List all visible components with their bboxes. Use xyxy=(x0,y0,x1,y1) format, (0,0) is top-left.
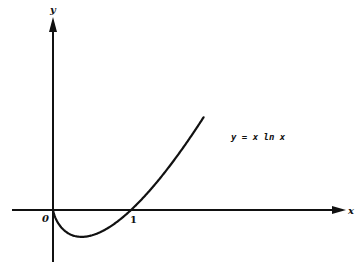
x-axis-label: x xyxy=(348,206,354,216)
tick-label-1: 1 xyxy=(130,215,137,225)
y-axis-label: y xyxy=(50,5,56,15)
curve-annotation: y = x ln x xyxy=(231,133,285,142)
curve-x-ln-x xyxy=(53,117,204,237)
y-axis-arrow-icon xyxy=(49,17,57,32)
origin-label: 0 xyxy=(42,214,49,224)
x-axis-arrow-icon xyxy=(332,206,346,214)
plot-canvas xyxy=(0,0,355,270)
